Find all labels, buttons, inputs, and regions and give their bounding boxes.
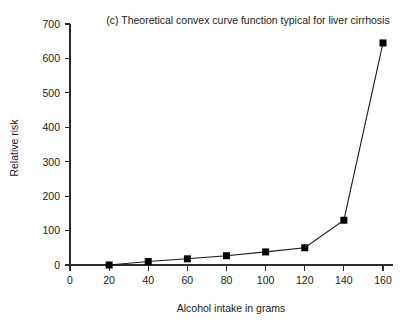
y-tick-label: 700 xyxy=(42,18,60,30)
data-point-marker xyxy=(301,244,308,251)
data-point-marker xyxy=(106,262,113,269)
y-tick-label: 0 xyxy=(54,259,60,271)
x-tick-label: 120 xyxy=(296,274,314,286)
chart-figure: (c) Theoretical convex curve function ty… xyxy=(0,0,412,327)
data-point-marker xyxy=(340,217,347,224)
x-tick-label: 0 xyxy=(67,274,73,286)
data-point-marker xyxy=(145,258,152,265)
data-point-marker xyxy=(380,39,387,46)
x-tick-label: 20 xyxy=(103,274,115,286)
data-point-markers xyxy=(106,39,387,268)
y-axis-title: Relative risk xyxy=(8,119,20,177)
data-series-line xyxy=(109,43,383,265)
line-chart: (c) Theoretical convex curve function ty… xyxy=(0,0,412,327)
y-axis-ticks: 0100200300400500600700 xyxy=(42,18,70,271)
x-tick-label: 100 xyxy=(257,274,275,286)
y-tick-label: 300 xyxy=(42,156,60,168)
y-tick-label: 400 xyxy=(42,121,60,133)
y-tick-label: 200 xyxy=(42,190,60,202)
data-point-marker xyxy=(262,248,269,255)
data-point-marker xyxy=(184,255,191,262)
chart-title: (c) Theoretical convex curve function ty… xyxy=(106,14,389,26)
x-axis-title: Alcohol intake in grams xyxy=(177,302,286,314)
x-tick-label: 140 xyxy=(335,274,353,286)
x-tick-label: 160 xyxy=(374,274,392,286)
data-point-marker xyxy=(223,252,230,259)
x-tick-label: 60 xyxy=(182,274,194,286)
y-tick-label: 100 xyxy=(42,224,60,236)
y-tick-label: 600 xyxy=(42,52,60,64)
x-axis-ticks: 020406080100120140160 xyxy=(67,265,392,286)
x-tick-label: 80 xyxy=(221,274,233,286)
y-tick-label: 500 xyxy=(42,87,60,99)
x-tick-label: 40 xyxy=(142,274,154,286)
